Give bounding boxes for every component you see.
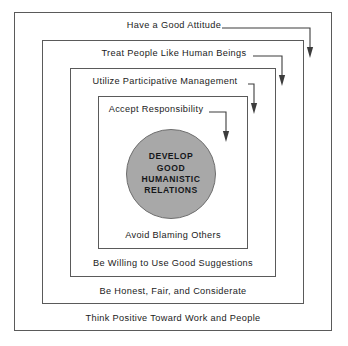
- center-circle: DEVELOP GOOD HUMANISTIC RELATIONS: [126, 129, 216, 219]
- top-label-layer-3: Utilize Participative Management: [0, 77, 330, 86]
- bottom-label-layer-1: Think Positive Toward Work and People: [14, 314, 332, 323]
- top-label-layer-2: Treat People Like Human Beings: [0, 49, 348, 58]
- bottom-label-layer-2: Be Honest, Fair, and Considerate: [42, 287, 304, 296]
- humanistic-relations-diagram: Have a Good Attitude Treat People Like H…: [0, 0, 348, 346]
- top-label-layer-4: Accept Responsibility: [0, 105, 312, 114]
- top-label-layer-1: Have a Good Attitude: [0, 21, 348, 30]
- bottom-label-layer-3: Be Willing to Use Good Suggestions: [70, 259, 276, 268]
- center-circle-label: DEVELOP GOOD HUMANISTIC RELATIONS: [142, 151, 201, 196]
- bottom-label-layer-4: Avoid Blaming Others: [98, 231, 248, 240]
